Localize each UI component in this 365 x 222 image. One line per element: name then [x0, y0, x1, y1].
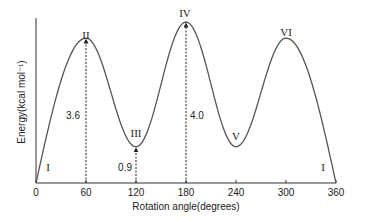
x-tick-label: 120	[128, 187, 145, 198]
conformer-label: I	[321, 161, 325, 173]
x-tick-label: 0	[33, 187, 39, 198]
x-tick-label: 180	[178, 187, 195, 198]
conformer-label: II	[82, 29, 90, 41]
x-tick-label: 60	[80, 187, 92, 198]
x-tick-label: 240	[228, 187, 245, 198]
x-tick-label: 360	[328, 187, 345, 198]
conformer-label: V	[232, 130, 240, 142]
energy-profile-chart: 060120180240300360 3.60.94.0IIIIIIIVVIVI…	[0, 0, 365, 222]
x-axis-title: Rotation angle(degrees)	[132, 201, 239, 212]
conformer-label: VI	[280, 26, 292, 38]
conformer-label: IV	[179, 7, 191, 19]
x-tick-label: 300	[278, 187, 295, 198]
conformer-label: III	[131, 127, 142, 139]
energy-value-label: 4.0	[190, 110, 204, 121]
energy-value-label: 3.6	[66, 110, 80, 121]
y-axis-title: Energy(kcal mol⁻¹)	[16, 60, 27, 143]
energy-value-label: 0.9	[118, 162, 132, 173]
conformer-label: I	[46, 161, 50, 173]
